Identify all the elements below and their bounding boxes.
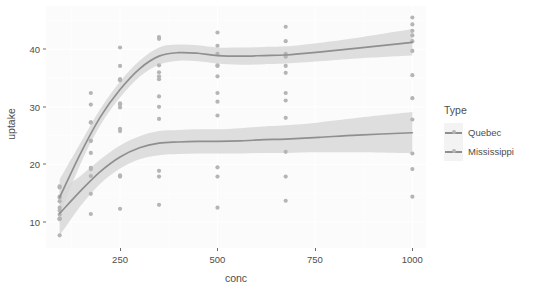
legend-title: Type	[444, 104, 539, 116]
y-axis-tick-label: 40	[0, 44, 46, 55]
y-axis-tick-label: 20	[0, 159, 46, 170]
data-point	[118, 174, 122, 178]
legend-key-point	[452, 149, 456, 153]
data-point	[118, 129, 122, 133]
x-axis-tick-label: 500	[210, 254, 226, 265]
data-point	[157, 105, 161, 109]
data-point	[284, 199, 288, 203]
legend-key-icon	[444, 123, 463, 142]
x-axis-tick-label: 1000	[402, 254, 423, 265]
data-point	[89, 166, 93, 170]
plot-panel	[46, 6, 426, 248]
data-point	[157, 94, 161, 98]
x-axis-tick-mark	[217, 248, 218, 251]
confidence-ribbon	[60, 112, 413, 236]
data-point	[410, 96, 414, 100]
data-point	[410, 49, 414, 53]
data-point	[118, 45, 122, 49]
x-axis-tick-mark	[315, 248, 316, 251]
data-point	[58, 184, 62, 188]
legend-key-icon	[444, 142, 463, 161]
legend: Type QuebecMississippi	[444, 104, 539, 161]
x-axis-title: conc	[46, 272, 426, 284]
data-point	[215, 91, 219, 95]
data-point	[284, 174, 288, 178]
data-point	[410, 22, 414, 26]
data-point	[157, 203, 161, 207]
data-point	[284, 64, 288, 68]
data-point	[157, 77, 161, 81]
data-point	[157, 63, 161, 67]
legend-item-mississippi[interactable]: Mississippi	[444, 142, 539, 161]
data-point	[157, 117, 161, 121]
x-axis-tick-label: 750	[307, 254, 323, 265]
data-point	[410, 29, 414, 33]
data-point	[215, 113, 219, 117]
data-point	[410, 117, 414, 121]
data-point	[89, 91, 93, 95]
data-point	[157, 169, 161, 173]
data-point	[215, 44, 219, 48]
legend-item-label: Quebec	[468, 127, 501, 138]
data-point	[215, 206, 219, 210]
plot-svg	[46, 6, 426, 248]
data-point	[118, 64, 122, 68]
data-point	[157, 35, 161, 39]
data-point	[410, 151, 414, 155]
data-point	[157, 70, 161, 74]
data-point	[410, 33, 414, 37]
x-axis-tick-mark	[412, 248, 413, 251]
data-point	[89, 174, 93, 178]
data-point	[58, 233, 62, 237]
data-point	[118, 207, 122, 211]
data-point	[284, 71, 288, 75]
data-point	[89, 151, 93, 155]
chart-root: uptake 10203040 2505007501000 conc Type …	[0, 0, 541, 300]
data-point	[410, 167, 414, 171]
data-point	[284, 39, 288, 43]
x-axis-title-text: conc	[225, 272, 247, 284]
data-point	[410, 195, 414, 199]
data-point	[89, 102, 93, 106]
y-axis-tick-label: 10	[0, 217, 46, 228]
data-point	[215, 64, 219, 68]
y-axis-tick-label: 30	[0, 101, 46, 112]
x-axis-tick-mark	[120, 248, 121, 251]
data-point	[215, 74, 219, 78]
x-axis-tick-label: 250	[112, 254, 128, 265]
data-point	[118, 101, 122, 105]
legend-key-point	[452, 130, 456, 134]
legend-item-label: Mississippi	[468, 146, 514, 157]
data-point	[89, 139, 93, 143]
data-point	[284, 150, 288, 154]
data-point	[284, 116, 288, 120]
data-point	[284, 25, 288, 29]
data-point	[215, 165, 219, 169]
data-point	[215, 30, 219, 34]
legend-items: QuebecMississippi	[444, 123, 539, 161]
x-axis: 2505007501000	[0, 248, 541, 272]
data-point	[284, 91, 288, 95]
data-point	[284, 98, 288, 102]
data-point	[118, 78, 122, 82]
data-point	[58, 217, 62, 221]
data-point	[410, 15, 414, 19]
data-point	[215, 174, 219, 178]
data-point	[215, 100, 219, 104]
data-point	[410, 73, 414, 77]
data-point	[89, 212, 93, 216]
legend-item-quebec[interactable]: Quebec	[444, 123, 539, 142]
data-point	[89, 120, 93, 124]
y-axis: 10203040	[0, 0, 46, 250]
data-point	[89, 192, 93, 196]
data-point	[157, 174, 161, 178]
